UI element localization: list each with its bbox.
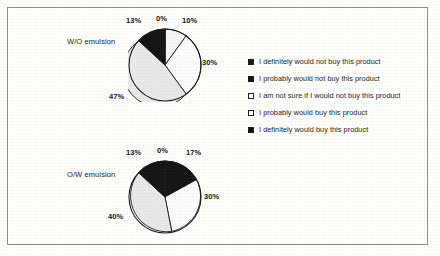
pct-wo-definitely-buy: 13% [126, 16, 141, 25]
legend-item-not-sure: I am not sure if I would not buy this pr… [248, 91, 408, 101]
legend-swatch-icon-definitely-buy [248, 127, 254, 133]
scanned-figure: W/O emulsion 13% 0% 10% 30% 47% O/W emul… [0, 0, 440, 256]
legend-swatch-icon-not-sure [248, 93, 254, 99]
pct-ow-not-sure: 30% [204, 192, 219, 201]
pct-wo-not-sure: 30% [202, 58, 217, 67]
legend-label-definitely-buy: I definitely would buy this product [259, 125, 368, 134]
legend-item-probably-not-buy: I probably would not buy this product [248, 74, 408, 84]
pie-svg-wo-emulsion [128, 28, 202, 102]
legend-item-definitely-not-buy: I definitely would not buy this product [248, 57, 408, 67]
pct-wo-definitely-not-buy: 0% [156, 14, 167, 23]
chart-legend: I definitely would not buy this product … [248, 57, 408, 142]
legend-label-not-sure: I am not sure if I would not buy this pr… [259, 91, 400, 100]
pct-wo-probably-not-buy: 10% [182, 16, 197, 25]
legend-swatch-icon-definitely-not-buy [248, 59, 254, 65]
pct-ow-definitely-buy: 13% [126, 148, 141, 157]
legend-item-probably-buy: I probably would buy this product [248, 108, 408, 118]
legend-label-probably-not-buy: I probably would not buy this product [259, 74, 380, 83]
legend-swatch-icon-probably-buy [248, 110, 254, 116]
pct-ow-probably-buy: 40% [108, 212, 123, 221]
pct-ow-definitely-not-buy: 0% [157, 146, 168, 155]
pie-title-ow-emulsion: O/W emulsion [67, 170, 115, 179]
pie-title-wo-emulsion: W/O emulsion [67, 37, 115, 46]
legend-label-probably-buy: I probably would buy this product [259, 108, 367, 117]
pct-wo-probably-buy: 47% [109, 92, 124, 101]
pie-chart-wo-emulsion [128, 28, 202, 102]
legend-label-definitely-not-buy: I definitely would not buy this product [259, 57, 381, 66]
legend-swatch-icon-probably-not-buy [248, 76, 254, 82]
legend-item-definitely-buy: I definitely would buy this product [248, 125, 408, 135]
pie-chart-ow-emulsion [128, 160, 202, 234]
pie-svg-ow-emulsion [128, 160, 202, 234]
pct-ow-probably-not-buy: 17% [186, 148, 201, 157]
